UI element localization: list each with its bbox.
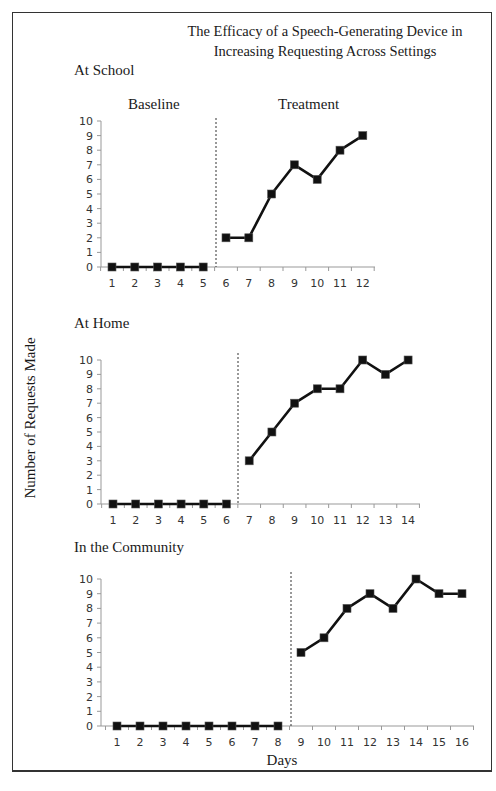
x-tick-label: 15 (432, 736, 446, 749)
data-marker (132, 500, 140, 508)
data-marker (109, 500, 117, 508)
y-tick-label: 7 (86, 159, 93, 172)
x-tick-label: 5 (200, 514, 207, 527)
plot-area: 0123456789101234567891011120123456789101… (0, 0, 496, 791)
x-tick-label: 8 (268, 277, 275, 290)
data-marker (228, 722, 236, 730)
y-tick-label: 2 (86, 469, 93, 482)
x-tick-label: 14 (401, 514, 415, 527)
data-marker (245, 234, 253, 242)
y-tick-label: 5 (86, 426, 93, 439)
x-tick-label: 12 (356, 514, 370, 527)
x-tick-label: 4 (178, 514, 185, 527)
data-marker (404, 356, 412, 364)
y-tick-label: 3 (86, 455, 93, 468)
data-marker (389, 604, 397, 612)
data-marker (136, 722, 144, 730)
y-tick-label: 0 (86, 720, 93, 733)
data-marker (268, 190, 276, 198)
y-tick-label: 7 (86, 617, 93, 630)
x-tick-label: 1 (110, 514, 117, 527)
data-marker (297, 649, 305, 657)
x-tick-label: 1 (114, 736, 121, 749)
data-marker (176, 263, 184, 271)
x-tick-label: 7 (245, 277, 252, 290)
y-tick-label: 0 (86, 498, 93, 511)
x-tick-label: 9 (298, 736, 305, 749)
y-tick-label: 6 (86, 173, 93, 186)
y-tick-label: 2 (86, 691, 93, 704)
x-tick-label: 12 (356, 277, 370, 290)
data-marker (343, 604, 351, 612)
y-tick-label: 6 (86, 412, 93, 425)
data-marker (336, 146, 344, 154)
data-marker (458, 590, 466, 598)
x-tick-label: 11 (333, 514, 347, 527)
x-tick-label: 8 (275, 736, 282, 749)
x-tick-label: 10 (317, 736, 331, 749)
x-tick-label: 3 (154, 277, 161, 290)
y-tick-label: 8 (86, 383, 93, 396)
x-tick-label: 11 (333, 277, 347, 290)
x-tick-label: 13 (378, 514, 392, 527)
x-tick-label: 9 (291, 277, 298, 290)
data-marker (359, 132, 367, 140)
data-marker (245, 457, 253, 465)
x-tick-label: 9 (291, 514, 298, 527)
data-marker (108, 263, 116, 271)
x-tick-label: 3 (160, 736, 167, 749)
data-marker (313, 385, 321, 393)
x-tick-label: 11 (340, 736, 354, 749)
data-marker (223, 500, 231, 508)
x-tick-label: 6 (229, 736, 236, 749)
data-marker (412, 575, 420, 583)
x-tick-label: 8 (268, 514, 275, 527)
y-tick-label: 10 (79, 573, 93, 586)
x-tick-label: 6 (223, 514, 230, 527)
data-marker (154, 263, 162, 271)
data-marker (268, 428, 276, 436)
y-tick-label: 4 (86, 661, 93, 674)
x-tick-label: 6 (223, 277, 230, 290)
y-tick-label: 1 (86, 484, 93, 497)
x-tick-label: 7 (252, 736, 259, 749)
data-marker (359, 356, 367, 364)
y-tick-label: 0 (86, 261, 93, 274)
x-tick-label: 5 (200, 277, 207, 290)
data-marker (290, 161, 298, 169)
y-tick-label: 9 (86, 130, 93, 143)
x-tick-label: 2 (132, 514, 139, 527)
data-marker (200, 500, 208, 508)
data-marker (182, 722, 190, 730)
y-tick-label: 2 (86, 232, 93, 245)
data-marker (320, 634, 328, 642)
y-tick-label: 8 (86, 602, 93, 615)
data-marker (222, 234, 230, 242)
x-tick-label: 3 (155, 514, 162, 527)
x-tick-label: 10 (310, 514, 324, 527)
data-marker (251, 722, 259, 730)
y-tick-label: 7 (86, 397, 93, 410)
y-tick-label: 3 (86, 217, 93, 230)
y-tick-label: 4 (86, 440, 93, 453)
x-tick-label: 12 (363, 736, 377, 749)
data-marker (154, 500, 162, 508)
data-marker (336, 385, 344, 393)
data-marker (435, 590, 443, 598)
data-marker (131, 263, 139, 271)
data-marker (366, 590, 374, 598)
x-tick-label: 5 (206, 736, 213, 749)
y-tick-label: 4 (86, 203, 93, 216)
y-tick-label: 9 (86, 588, 93, 601)
data-marker (159, 722, 167, 730)
data-marker (199, 263, 207, 271)
y-tick-label: 1 (86, 246, 93, 259)
y-tick-label: 10 (79, 354, 93, 367)
y-tick-label: 6 (86, 632, 93, 645)
y-tick-label: 3 (86, 676, 93, 689)
x-tick-label: 10 (310, 277, 324, 290)
x-tick-label: 4 (183, 736, 190, 749)
data-marker (113, 722, 121, 730)
y-tick-label: 8 (86, 144, 93, 157)
x-tick-label: 13 (386, 736, 400, 749)
